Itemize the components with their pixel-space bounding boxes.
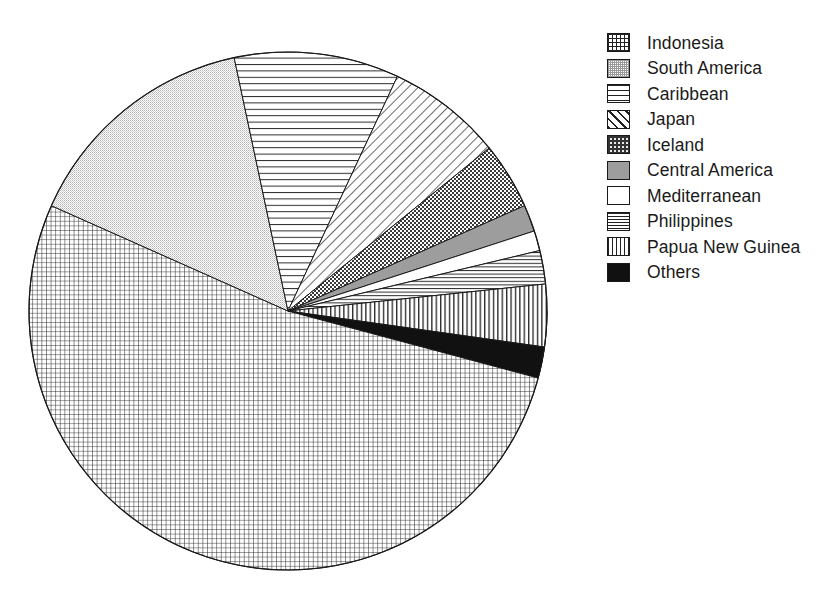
- legend-label-others: Others: [647, 262, 700, 282]
- legend-item-papua-new-guinea[interactable]: Papua New Guinea: [607, 234, 837, 260]
- legend-item-mediterranean[interactable]: Mediterranean: [607, 183, 837, 209]
- legend-item-indonesia[interactable]: Indonesia: [607, 30, 837, 56]
- legend-swatch-icon-indonesia: [607, 33, 630, 52]
- chart-legend: Indonesia South America Caribbean Japan …: [607, 30, 837, 285]
- legend-label-papua-new-guinea: Papua New Guinea: [647, 237, 800, 257]
- legend-swatch-icon-iceland: [607, 135, 630, 154]
- legend-label-south-america: South America: [647, 58, 762, 78]
- legend-swatch-icon-south-america: [607, 59, 630, 78]
- pie-slices: [29, 52, 547, 570]
- legend-item-iceland[interactable]: Iceland: [607, 132, 837, 158]
- legend-label-central-america: Central America: [647, 160, 773, 180]
- legend-label-mediterranean: Mediterranean: [647, 186, 761, 206]
- legend-item-central-america[interactable]: Central America: [607, 158, 837, 184]
- legend-label-japan: Japan: [647, 109, 695, 129]
- legend-item-others[interactable]: Others: [607, 260, 837, 286]
- legend-item-japan[interactable]: Japan: [607, 107, 837, 133]
- legend-item-south-america[interactable]: South America: [607, 56, 837, 82]
- legend-label-caribbean: Caribbean: [647, 84, 729, 104]
- legend-swatch-icon-japan: [607, 110, 630, 129]
- pie-chart-figure: Indonesia South America Caribbean Japan …: [0, 0, 840, 604]
- legend-swatch-icon-philippines: [607, 212, 630, 231]
- legend-item-philippines[interactable]: Philippines: [607, 209, 837, 235]
- legend-swatch-icon-mediterranean: [607, 186, 630, 205]
- legend-swatch-icon-central-america: [607, 161, 630, 180]
- legend-swatch-icon-caribbean: [607, 84, 630, 103]
- legend-label-iceland: Iceland: [647, 135, 704, 155]
- legend-label-indonesia: Indonesia: [647, 33, 724, 53]
- legend-swatch-icon-papua-new-guinea: [607, 237, 630, 256]
- legend-swatch-icon-others: [607, 263, 630, 282]
- legend-label-philippines: Philippines: [647, 211, 733, 231]
- legend-item-caribbean[interactable]: Caribbean: [607, 81, 837, 107]
